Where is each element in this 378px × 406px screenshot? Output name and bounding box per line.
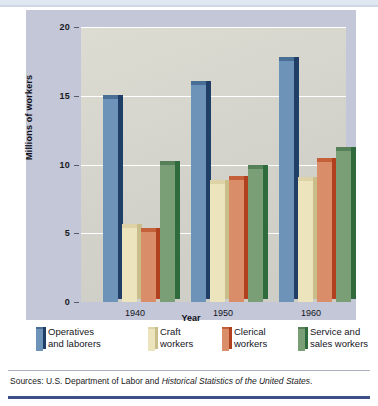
swatch-top xyxy=(36,327,43,329)
source-suffix: . xyxy=(310,376,312,386)
y-tick-label-0: 0 xyxy=(48,297,70,307)
bar-1940-series-3 xyxy=(160,165,175,303)
y-tick-mark-5 xyxy=(74,233,79,234)
legend-item-2: Clericalworkers xyxy=(222,326,267,351)
bar-1960-series-1 xyxy=(298,181,313,302)
swatch-top-side xyxy=(155,327,158,329)
legend-label-3: Service andsales workers xyxy=(310,326,368,349)
bar-face xyxy=(160,165,175,303)
legend-item-3: Service andsales workers xyxy=(298,326,368,351)
x-tick-label-1960: 1960 xyxy=(281,308,341,318)
legend-label-line2: and laborers xyxy=(48,338,101,350)
bar-1940-series-1 xyxy=(122,228,137,302)
swatch-side xyxy=(229,327,232,349)
bar-face xyxy=(122,228,137,302)
legend-label-0: Operativesand laborers xyxy=(48,326,101,349)
swatch-face xyxy=(222,329,229,351)
bar-face xyxy=(279,61,294,302)
legend-item-1: Craftworkers xyxy=(148,326,193,351)
bar-top-side xyxy=(206,81,211,85)
bar-1950-series-2 xyxy=(229,180,244,302)
swatch-face xyxy=(36,329,43,351)
source-divider xyxy=(8,370,370,371)
legend-label-line1: Craft xyxy=(160,326,193,338)
bar-face xyxy=(210,184,225,302)
bar-top xyxy=(248,165,263,169)
bar-top-side xyxy=(263,165,268,169)
legend-swatch-craft xyxy=(148,327,155,351)
chart-figure: Millions of workers 05101520 19401950196… xyxy=(0,0,378,406)
y-tick-mark-10 xyxy=(74,165,79,166)
bar-top xyxy=(279,57,294,61)
y-tick-label-10: 10 xyxy=(48,160,70,170)
legend-label-1: Craftworkers xyxy=(160,326,193,349)
bar-top-side xyxy=(294,57,299,61)
bottom-rule xyxy=(8,396,370,399)
source-note: Sources: U.S. Department of Labor and Hi… xyxy=(10,376,370,386)
bar-face xyxy=(298,181,313,302)
legend-item-0: Operativesand laborers xyxy=(36,326,101,351)
source-prefix: Sources: U.S. Department of Labor and xyxy=(10,376,162,386)
y-axis-title: Millions of workers xyxy=(24,75,34,160)
plot-area xyxy=(81,27,346,302)
swatch-face xyxy=(298,329,305,351)
bar-face xyxy=(141,232,156,302)
bar-face xyxy=(191,85,206,302)
swatch-side xyxy=(43,327,46,349)
swatch-top xyxy=(298,327,305,329)
swatch-top-side xyxy=(43,327,46,329)
legend-label-line2: sales workers xyxy=(310,338,368,350)
swatch-top-side xyxy=(305,327,308,329)
bar-top-side xyxy=(118,95,123,99)
bar-1960-series-0 xyxy=(279,61,294,302)
bar-side xyxy=(263,166,268,299)
y-tick-label-15: 15 xyxy=(48,91,70,101)
bar-face xyxy=(229,180,244,302)
y-tick-mark-0 xyxy=(74,302,79,303)
x-tick-label-1940: 1940 xyxy=(105,308,165,318)
chart-legend: Operativesand laborersCraftworkersCleric… xyxy=(26,326,356,368)
top-rule-shadow xyxy=(0,5,378,7)
bar-face xyxy=(103,99,118,303)
bar-1940-series-0 xyxy=(103,99,118,303)
y-tick-label-20: 20 xyxy=(48,22,70,32)
legend-swatch-clerical xyxy=(222,327,229,351)
legend-swatch-operatives xyxy=(36,327,43,351)
y-tick-mark-20 xyxy=(74,27,79,28)
bar-top xyxy=(298,177,313,181)
x-axis-title: Year xyxy=(161,313,221,323)
y-tick-label-5: 5 xyxy=(48,228,70,238)
bar-side xyxy=(351,148,356,299)
bar-face xyxy=(317,162,332,302)
swatch-face xyxy=(148,329,155,351)
bar-side xyxy=(175,162,180,300)
bar-1940-series-2 xyxy=(141,232,156,302)
bar-1960-series-3 xyxy=(336,151,351,302)
gridline-20 xyxy=(81,27,346,28)
bar-1950-series-0 xyxy=(191,85,206,302)
legend-label-line1: Operatives xyxy=(48,326,101,338)
bar-top xyxy=(141,228,156,232)
legend-label-line2: workers xyxy=(234,338,267,350)
y-tick-mark-15 xyxy=(74,96,79,97)
bar-1950-series-3 xyxy=(248,169,263,302)
bar-top xyxy=(103,95,118,99)
bar-top-side xyxy=(175,161,180,165)
legend-swatch-service xyxy=(298,327,305,351)
swatch-side xyxy=(155,327,158,349)
swatch-side xyxy=(305,327,308,349)
source-title: Historical Statistics of the United Stat… xyxy=(162,376,310,386)
bar-top xyxy=(336,147,351,151)
legend-label-line1: Service and xyxy=(310,326,368,338)
legend-label-2: Clericalworkers xyxy=(234,326,267,349)
swatch-top xyxy=(222,327,229,329)
bar-top xyxy=(229,176,244,180)
bar-face xyxy=(336,151,351,302)
bar-top xyxy=(317,158,332,162)
bar-top xyxy=(191,81,206,85)
chart-panel: Millions of workers 05101520 19401950196… xyxy=(26,10,356,320)
swatch-top xyxy=(148,327,155,329)
bar-top-side xyxy=(351,147,356,151)
bar-top xyxy=(160,161,175,165)
bar-top xyxy=(210,180,225,184)
